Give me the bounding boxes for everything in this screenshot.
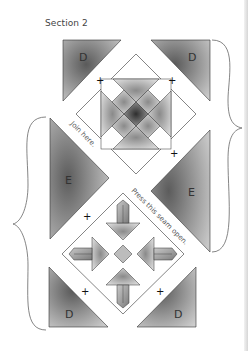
piece-label: D (188, 51, 196, 64)
piece-label: D (79, 51, 87, 64)
join-marker: + (81, 286, 89, 297)
piece-label: E (188, 186, 195, 199)
join-marker: + (96, 75, 104, 86)
join-marker: + (83, 211, 91, 222)
left-brace (13, 117, 46, 330)
piece-label: E (65, 174, 72, 187)
piece-label: D (65, 308, 73, 321)
piece-label: D (174, 308, 182, 321)
right-brace (212, 40, 242, 252)
quilt-assembly-diagram: D D E E (0, 0, 248, 351)
join-marker: + (168, 75, 176, 86)
join-marker: + (170, 148, 178, 159)
join-marker: + (156, 286, 164, 297)
